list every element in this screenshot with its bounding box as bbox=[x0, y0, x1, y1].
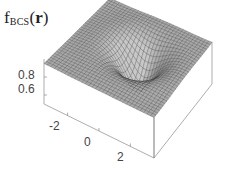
x-tick-label-0: -2 bbox=[49, 119, 60, 133]
title-argument: r bbox=[35, 8, 43, 27]
x-tick-label-1: 0 bbox=[84, 135, 91, 149]
title-close-paren: ) bbox=[43, 8, 49, 27]
mesh-surface bbox=[44, 0, 212, 118]
z-tick-label-0: 0.8 bbox=[18, 68, 35, 82]
plot-title: fBCS(r) bbox=[4, 8, 48, 28]
title-subscript: BCS bbox=[10, 16, 30, 27]
x-tick-label-2: 2 bbox=[117, 150, 124, 164]
z-tick-label-1: 0.6 bbox=[18, 82, 35, 96]
